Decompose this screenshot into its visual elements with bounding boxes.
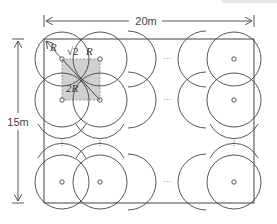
- svg-text:···: ···: [163, 54, 171, 63]
- svg-text:⋮: ⋮: [230, 138, 238, 147]
- svg-text:⋮: ⋮: [96, 138, 104, 147]
- diagonal-label: 2R: [66, 82, 79, 94]
- detector-icon: [98, 180, 102, 184]
- detector-icon: [232, 180, 236, 184]
- coverage-circles: [35, 31, 261, 210]
- height-label: 15m: [7, 116, 28, 128]
- detector-icon: [60, 180, 64, 184]
- width-label: 20m: [135, 15, 156, 27]
- radius-label: R: [49, 41, 57, 53]
- detector-icon: [232, 57, 236, 61]
- svg-text:⋮: ⋮: [58, 138, 66, 147]
- detector-icon: [60, 98, 64, 102]
- svg-text:···: ···: [163, 177, 171, 186]
- svg-text:···: ···: [163, 95, 171, 104]
- detector-icon: [232, 98, 236, 102]
- detector-icon: [98, 57, 102, 61]
- coverage-diagram: 20m 15m: [0, 0, 277, 224]
- height-dimension: 15m: [7, 39, 28, 203]
- side-label-prefix: √2: [67, 45, 79, 57]
- width-dimension: 20m: [44, 15, 254, 27]
- side-label-var: R: [85, 45, 93, 57]
